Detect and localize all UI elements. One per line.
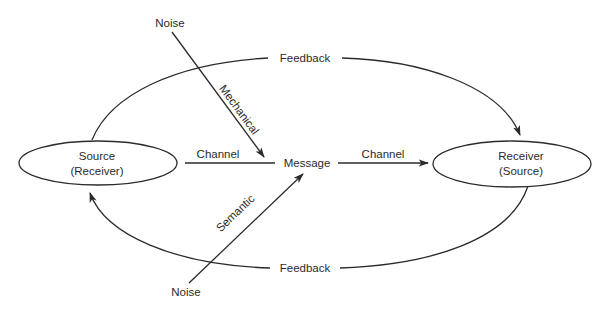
communication-diagram: Feedback Feedback Channel Channel Mechan… bbox=[0, 0, 613, 311]
message-label: Message bbox=[284, 157, 331, 169]
source-sublabel: (Receiver) bbox=[70, 165, 123, 177]
mechanical-noise-edge: Mechanical bbox=[172, 32, 264, 157]
feedback-top-curve-left bbox=[92, 58, 268, 140]
receiver-ellipse bbox=[433, 141, 591, 187]
noise-top-label: Noise bbox=[155, 17, 184, 29]
receiver-node: Receiver (Source) bbox=[433, 141, 591, 187]
feedback-bottom-curve-right bbox=[340, 186, 528, 268]
feedback-bottom-label: Feedback bbox=[280, 262, 331, 274]
channel-right-label: Channel bbox=[362, 148, 405, 160]
feedback-top-label: Feedback bbox=[280, 52, 331, 64]
receiver-label: Receiver bbox=[498, 150, 544, 162]
feedback-bottom-edge: Feedback bbox=[90, 186, 528, 274]
source-label: Source bbox=[79, 150, 115, 162]
source-ellipse bbox=[19, 141, 177, 185]
receiver-sublabel: (Source) bbox=[499, 165, 543, 177]
semantic-label: Semantic bbox=[214, 192, 257, 234]
feedback-top-edge: Feedback bbox=[92, 52, 520, 140]
channel-right-edge: Channel bbox=[338, 148, 428, 163]
noise-bottom-label: Noise bbox=[171, 286, 200, 298]
feedback-top-curve-right bbox=[342, 58, 520, 135]
channel-left-edge: Channel bbox=[185, 148, 275, 163]
source-node: Source (Receiver) bbox=[19, 141, 177, 185]
channel-left-label: Channel bbox=[197, 148, 240, 160]
mechanical-arrow bbox=[172, 32, 264, 157]
mechanical-label: Mechanical bbox=[217, 83, 261, 137]
